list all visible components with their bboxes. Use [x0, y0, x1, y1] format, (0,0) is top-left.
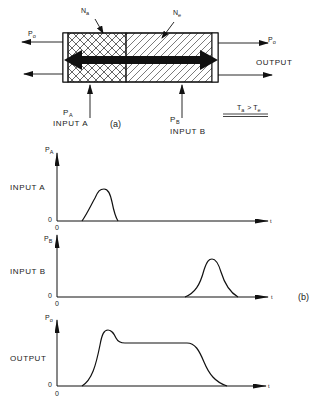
na-leader-line: [95, 19, 103, 33]
y-axis-label: Po: [45, 314, 53, 323]
graph-output: Po t OUTPUT 0 0: [10, 314, 270, 397]
pulse-a-curve: [82, 189, 118, 221]
device-schematic: Na Ne Po Po OUTPUT PA INPUT A (a) PB INP…: [22, 7, 293, 136]
y-axis-label: PB: [44, 235, 53, 244]
x-axis-label: t: [268, 383, 270, 389]
right-po-label: Po: [268, 36, 276, 45]
ne-label: Ne: [173, 9, 181, 18]
origin-y: 0: [48, 381, 52, 388]
pb-label: PB: [170, 115, 180, 125]
y-axis-label: PA: [45, 146, 54, 155]
origin-x: 0: [55, 224, 59, 231]
origin-x: 0: [55, 390, 59, 397]
left-po-label: Po: [28, 30, 36, 39]
pulse-b-curve: [185, 259, 238, 297]
output-curve: [82, 330, 227, 386]
pa-label: PA: [63, 108, 73, 118]
origin-y: 0: [48, 216, 52, 223]
origin-y: 0: [48, 292, 52, 299]
part-b-label: (b): [298, 292, 309, 302]
input-a-label: INPUT A: [53, 119, 88, 128]
bistable-device-figure: Na Ne Po Po OUTPUT PA INPUT A (a) PB INP…: [0, 0, 323, 403]
graph-label: INPUT B: [10, 267, 46, 276]
output-label: OUTPUT: [256, 58, 293, 67]
na-label: Na: [81, 7, 90, 16]
x-axis-label: t: [271, 294, 273, 300]
graph-input-b: PB t INPUT B 0 0 (b): [10, 235, 309, 307]
part-a-label: (a): [110, 119, 121, 129]
x-axis-label: t: [270, 218, 272, 224]
origin-x: 0: [55, 300, 59, 307]
graph-label: OUTPUT: [10, 354, 47, 363]
left-end-cap: [63, 33, 68, 82]
graph-label: INPUT A: [10, 183, 45, 192]
graph-input-a: PA t INPUT A 0 0: [10, 146, 272, 231]
temperature-condition: Ta > Te: [237, 104, 261, 113]
input-b-label: INPUT B: [170, 127, 206, 136]
